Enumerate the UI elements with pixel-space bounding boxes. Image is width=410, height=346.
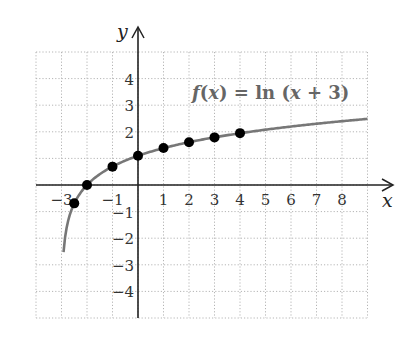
function-label: f(x) = ln (x + 3) — [190, 82, 349, 103]
x-tick-label: 5 — [261, 191, 271, 209]
x-tick-label: 2 — [184, 191, 194, 209]
data-point — [159, 143, 169, 153]
x-tick-label: 1 — [159, 191, 169, 209]
data-point — [235, 128, 245, 138]
x-tick-label: 6 — [286, 191, 296, 209]
data-point — [82, 180, 92, 190]
data-point — [210, 132, 220, 142]
data-point — [133, 151, 143, 161]
data-point — [69, 198, 79, 208]
y-tick-label: 3 — [124, 97, 134, 115]
x-tick-label: 4 — [235, 191, 245, 209]
y-axis-label: y — [116, 20, 128, 42]
x-tick-label: 3 — [210, 191, 220, 209]
log-function-chart: x y −3−112345678 432−1−2−3−4 f(x) = ln (… — [0, 0, 410, 346]
y-tick-label: −1 — [112, 204, 134, 222]
x-tick-labels: −3−112345678 — [50, 191, 346, 209]
y-tick-label: 2 — [124, 124, 134, 142]
x-axis-label: x — [382, 189, 393, 211]
x-tick-label: −3 — [50, 191, 72, 209]
y-tick-label: −3 — [112, 257, 134, 275]
x-tick-label: 7 — [312, 191, 322, 209]
y-tick-label: 4 — [124, 71, 134, 89]
y-tick-label: −4 — [112, 283, 134, 301]
y-tick-label: −2 — [112, 230, 134, 248]
x-tick-label: 8 — [337, 191, 347, 209]
data-point — [184, 137, 194, 147]
data-point — [108, 162, 118, 172]
